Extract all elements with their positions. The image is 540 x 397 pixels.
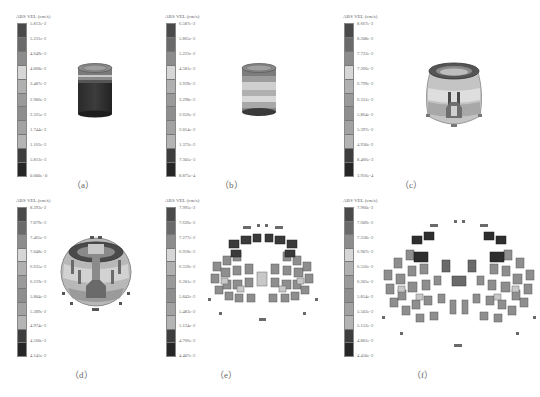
colorbar-segment (345, 121, 353, 135)
tick-label: 5.864e-2 (357, 112, 373, 117)
tick-label: 6.799e-2 (357, 81, 373, 86)
tick-label: 5.231e-2 (30, 36, 46, 41)
colorbar (344, 207, 354, 357)
expanded-fragment-cloud-model (382, 220, 536, 352)
cylinder-banded-model (240, 62, 278, 118)
tick-label: 5.503e-2 (357, 309, 373, 314)
tick-label: 7.609e-2 (357, 220, 373, 225)
colorbar-segment (18, 66, 26, 80)
colorbar-segment (345, 94, 353, 108)
colorbar-segment (18, 163, 26, 176)
tick-label: 1.162e-2 (30, 142, 46, 147)
colorbar-segment (167, 107, 175, 121)
colorbar-segment (18, 316, 26, 330)
tick-label: 7.995e-2 (179, 205, 195, 210)
tick-label: 4.649e-2 (30, 51, 46, 56)
caption-c: （c） (400, 178, 422, 191)
tick-label: 5.223e-2 (179, 51, 195, 56)
colorbar-segment (345, 303, 353, 317)
colorbar (17, 207, 27, 357)
cylinder-intact-model (76, 62, 114, 118)
colorbar-segment (18, 208, 26, 222)
legend-title: ABS VEL (cm/s) (16, 14, 50, 19)
colorbar-segment (18, 303, 26, 317)
legend-title: ABS VEL (cm/s) (165, 14, 199, 19)
caption-f: （f） (412, 368, 433, 381)
caption-a: （a） (72, 178, 94, 191)
colorbar-segment (167, 249, 175, 263)
colorbar-segment (167, 149, 175, 163)
tick-label: 7.465e-2 (30, 235, 46, 240)
colorbar-segment (345, 135, 353, 149)
colorbar-segment (18, 80, 26, 94)
tick-label: 4.801e-2 (357, 338, 373, 343)
tick-label: 4.766e-2 (179, 338, 195, 343)
tick-label: 2.014e-2 (179, 127, 195, 132)
colorbar-segment (18, 222, 26, 236)
colorbar-segment (345, 66, 353, 80)
colorbar-segment (345, 249, 353, 263)
caption-b: （b） (220, 178, 243, 191)
colorbar-segment (345, 330, 353, 344)
tick-label: 5.397e-2 (357, 127, 373, 132)
colorbar-segment (167, 303, 175, 317)
tick-label: 8.875e-4 (179, 173, 195, 178)
tick-label: 4.930e-2 (357, 142, 373, 147)
colorbar-segment (18, 52, 26, 66)
tick-label: 5.865e-2 (179, 36, 195, 41)
colorbar-segment (167, 330, 175, 344)
colorbar-segment (167, 24, 175, 38)
legend-title: ABS VEL (cm/s) (16, 198, 50, 203)
colorbar-segment (167, 276, 175, 290)
colorbar-segment (345, 208, 353, 222)
colorbar-segment (18, 24, 26, 38)
colorbar-segment (167, 94, 175, 108)
colorbar-segment (345, 276, 353, 290)
tick-label: 5.124e-2 (179, 323, 195, 328)
tick-label: 4.068e-2 (30, 66, 46, 71)
tick-label: 7.048e-2 (30, 249, 46, 254)
colorbar-segment (18, 330, 26, 344)
colorbar-segment (345, 52, 353, 66)
colorbar-segment (18, 289, 26, 303)
tick-label: 1.744e-2 (30, 127, 46, 132)
colorbar-segment (167, 66, 175, 80)
tick-label: 6.918e-2 (179, 249, 195, 254)
tick-label: 2.906e-2 (30, 97, 46, 102)
colorbar (344, 23, 354, 177)
tick-label: 4.407e-2 (179, 353, 195, 358)
colorbar-segment (345, 222, 353, 236)
colorbar-segment (167, 235, 175, 249)
colorbar (166, 23, 176, 177)
tick-label: 7.266e-2 (357, 66, 373, 71)
colorbar-segment (167, 262, 175, 276)
tick-label: 7.733e-2 (357, 51, 373, 56)
colorbar-segment (167, 316, 175, 330)
tick-label: 1.372e-2 (179, 142, 195, 147)
tick-label: 6.205e-2 (357, 279, 373, 284)
colorbar-segment (345, 107, 353, 121)
tick-label: 4.560e-2 (30, 338, 46, 343)
tick-label: 6.331e-2 (357, 97, 373, 102)
colorbar-segment (18, 249, 26, 263)
colorbar-segment (18, 135, 26, 149)
colorbar-segment (18, 107, 26, 121)
tick-label: 6.201e-2 (179, 279, 195, 284)
tick-label: 6.587e-2 (179, 21, 195, 26)
panel-b: ABS VEL (cm/s) 6.587e-2 5.865e-2 5.223e-… (165, 0, 335, 190)
panel-c: ABS VEL (cm/s) 8.667e-2 8.208e-2 7.733e-… (340, 0, 540, 190)
colorbar-segment (167, 52, 175, 66)
tick-label: 8.667e-2 (357, 21, 373, 26)
panel-a: ABS VEL (cm/s) 5.812e-2 5.231e-2 4.649e-… (0, 0, 170, 190)
panel-f: ABS VEL (cm/s) 7.960e-2 7.609e-2 7.258e-… (340, 192, 540, 397)
colorbar-segment (345, 80, 353, 94)
tick-label: 4.145e-2 (30, 353, 46, 358)
tick-label: 5.804e-2 (30, 294, 46, 299)
colorbar-segment (167, 80, 175, 94)
colorbar (166, 207, 176, 357)
tick-label: 3.487e-2 (30, 81, 46, 86)
fragment-cloud-model (207, 222, 319, 326)
colorbar-segment (345, 343, 353, 356)
tick-label: 6.556e-2 (357, 264, 373, 269)
colorbar-segment (18, 276, 26, 290)
